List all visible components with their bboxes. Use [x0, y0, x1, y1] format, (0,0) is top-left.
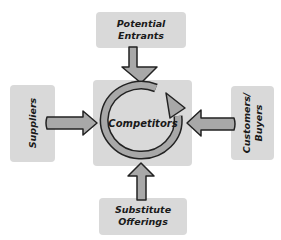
arrow-down-icon	[122, 47, 157, 83]
arrow-left-icon	[187, 110, 235, 136]
potential-entrants-label: Potential Entrants	[96, 18, 186, 42]
competitors-label: Competitors	[108, 118, 178, 130]
arrow-up-icon	[128, 163, 154, 200]
suppliers-label: Suppliers	[27, 86, 39, 161]
arrow-right-icon	[46, 111, 97, 135]
substitute-offerings-label: Substitute Offerings	[99, 204, 187, 228]
customers-buyers-label: Customers/ Buyers	[241, 86, 265, 161]
